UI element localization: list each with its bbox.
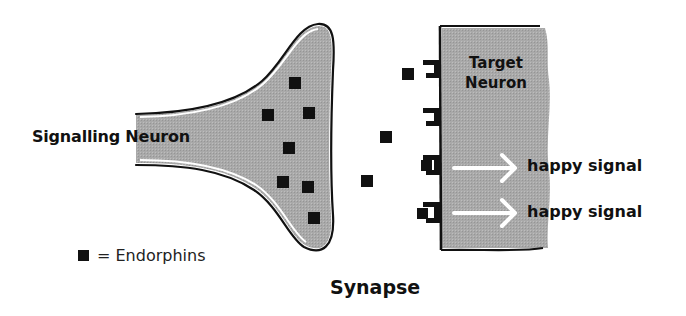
endorphin-icon: [308, 212, 320, 224]
happy-signal-label: happy signal: [527, 156, 642, 175]
legend: = Endorphins: [78, 246, 205, 265]
endorphins-in-gap: [361, 68, 414, 187]
endorphin-icon: [277, 176, 289, 188]
endorphin-icon: [283, 142, 295, 154]
happy-signal-label: happy signal: [527, 202, 642, 221]
target-neuron-label: Target Neuron: [458, 53, 534, 93]
target-neuron-label-line2: Neuron: [458, 73, 534, 93]
endorphin-icon: [302, 181, 314, 193]
legend-text: = Endorphins: [97, 246, 205, 265]
diagram-title: Synapse: [330, 276, 420, 298]
target-neuron-label-line1: Target: [458, 53, 534, 73]
endorphin-icon: [402, 68, 414, 80]
receptor-bound-icon: [421, 155, 441, 175]
receptor-icon: [423, 108, 441, 126]
synapse-diagram: Signalling Neuron Target Neuron happy si…: [0, 0, 686, 316]
endorphin-legend-icon: [78, 250, 89, 261]
endorphin-icon: [289, 77, 301, 89]
signalling-neuron-label: Signalling Neuron: [32, 127, 190, 146]
endorphin-icon: [380, 131, 392, 143]
endorphin-icon: [262, 109, 274, 121]
receptor-icon: [423, 60, 441, 78]
endorphin-icon: [361, 175, 373, 187]
receptors: [417, 60, 441, 223]
endorphin-icon: [303, 107, 315, 119]
receptor-bound-icon: [417, 202, 441, 223]
